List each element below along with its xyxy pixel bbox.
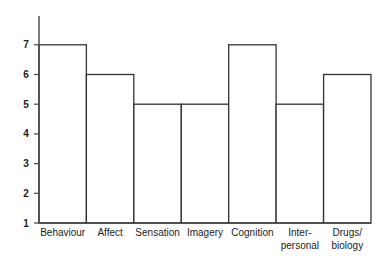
x-category-label: Imagery xyxy=(187,227,223,238)
bar-affect xyxy=(86,75,133,224)
y-tick-label: 2 xyxy=(23,188,29,199)
y-tick-label: 7 xyxy=(23,39,29,50)
x-axis-labels: BehaviourAffectSensationImageryCognition… xyxy=(40,227,363,251)
y-tick-label: 1 xyxy=(23,218,29,229)
bar-inter-personal xyxy=(276,104,323,223)
y-tick-label: 3 xyxy=(23,158,29,169)
y-tick-label: 6 xyxy=(23,69,29,80)
bar-chart: 1234567 BehaviourAffectSensationImageryC… xyxy=(0,0,390,261)
y-tick-label: 5 xyxy=(23,99,29,110)
bar-imagery xyxy=(181,104,228,223)
bar-behaviour xyxy=(39,45,86,223)
bars xyxy=(39,45,371,223)
bar-cognition xyxy=(229,45,276,223)
x-category-label: Affect xyxy=(97,227,123,238)
bar-drugs-biology xyxy=(324,75,371,224)
x-category-label: Sensation xyxy=(135,227,179,238)
y-tick-label: 4 xyxy=(23,128,29,139)
x-category-label: Drugs/biology xyxy=(331,227,363,251)
x-category-label: Cognition xyxy=(231,227,273,238)
bar-sensation xyxy=(134,104,181,223)
x-category-label: Behaviour xyxy=(40,227,86,238)
x-category-label: Inter-personal xyxy=(281,227,319,251)
